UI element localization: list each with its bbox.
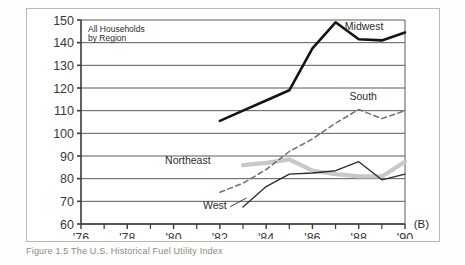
chart-frame: 60708090100110120130140150'76'78'80'82'8…	[26, 8, 440, 242]
x-tick-label: '82	[212, 231, 228, 239]
line-chart: 60708090100110120130140150'76'78'80'82'8…	[27, 9, 437, 239]
series-label-west: West	[203, 199, 227, 211]
x-tick-label: '78	[119, 231, 135, 239]
y-tick-label: 60	[60, 218, 74, 232]
chart-note-line2: by Region	[88, 33, 127, 43]
x-tick-label: '80	[165, 231, 181, 239]
x-tick-label: '76	[73, 231, 89, 239]
series-label-south: South	[349, 90, 377, 102]
series-line-south	[220, 110, 405, 193]
y-tick-label: 90	[60, 150, 74, 164]
y-tick-label: 70	[60, 195, 74, 209]
y-tick-label: 150	[53, 14, 74, 28]
y-tick-label: 80	[60, 172, 74, 186]
y-tick-label: 120	[53, 82, 74, 96]
series-line-midwest	[220, 22, 405, 121]
x-tick-label: '84	[258, 231, 274, 239]
x-tick-label: '90	[397, 231, 413, 239]
series-label-northeast: Northeast	[165, 154, 211, 166]
y-tick-label: 130	[53, 59, 74, 73]
panel-label: (B)	[414, 218, 429, 230]
y-tick-label: 100	[53, 127, 74, 141]
figure-caption: Figure 1.5 The U.S. Historical Fuel Util…	[26, 246, 438, 260]
figure-panel: 60708090100110120130140150'76'78'80'82'8…	[0, 0, 465, 265]
y-tick-label: 110	[54, 104, 74, 118]
x-tick-label: '86	[304, 231, 320, 239]
x-tick-label: '88	[351, 231, 367, 239]
series-label-midwest: Midwest	[345, 20, 384, 32]
y-tick-label: 140	[53, 36, 74, 50]
